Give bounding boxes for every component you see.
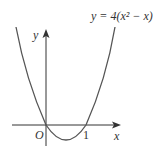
parabola-graph: y x O 1 y = 4(x² − x) (0, 0, 154, 146)
parabola-curve (16, 27, 115, 140)
origin-label: O (35, 128, 44, 142)
x-axis-label: x (113, 129, 120, 143)
equation-label: y = 4(x² − x) (90, 9, 153, 23)
x-tick-1: 1 (83, 128, 89, 142)
y-axis-label: y (32, 28, 39, 42)
